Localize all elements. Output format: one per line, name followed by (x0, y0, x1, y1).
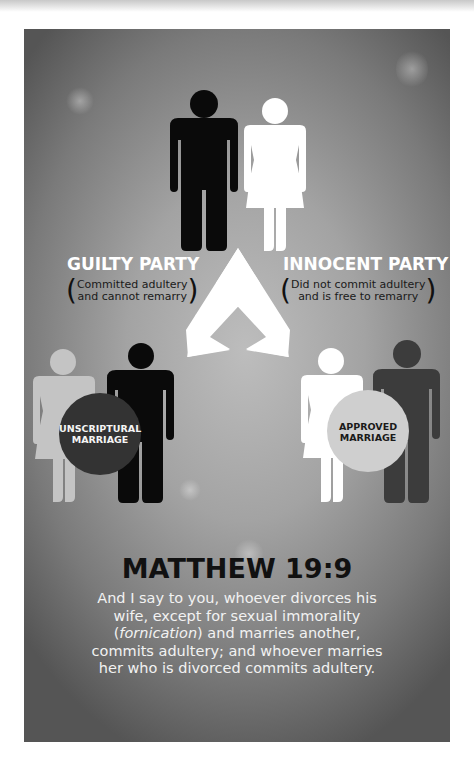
guilty-party-description: ( Committed adultery and cannot remarry … (66, 278, 199, 304)
verse-reference: MATTHEW 19:9 (0, 553, 474, 584)
approved-line-1: APPROVED (339, 421, 397, 432)
unscriptural-line-2: MARRIAGE (72, 434, 129, 445)
innocent-description-text: Did not commit adultery and is free to r… (291, 279, 425, 303)
innocent-party-title: INNOCENT PARTY (283, 254, 448, 274)
verse-line-2: wife, except for sexual immorality (114, 608, 361, 624)
woman-figure-white-top (244, 98, 306, 251)
verse-line-3-rest: ) and marries another, (197, 625, 360, 641)
verse-text: And I say to you, whoever divorces his w… (60, 590, 414, 678)
unscriptural-marriage-label: UNSCRIPTURAL MARRIAGE (59, 423, 141, 445)
innocent-party-description: ( Did not commit adultery and is free to… (280, 278, 436, 304)
open-paren: ( (66, 278, 77, 304)
close-paren: ) (188, 278, 199, 304)
verse-line-5: her who is divorced commits adultery. (99, 660, 375, 676)
verse-line-3-italic: fornication (119, 625, 197, 641)
innocent-line-2: and is free to remarry (298, 290, 418, 303)
verse-line-1: And I say to you, whoever divorces his (97, 590, 377, 606)
man-figure-black-top (170, 90, 238, 251)
guilty-line-2: and cannot remarry (78, 290, 187, 303)
guilty-party-title: GUILTY PARTY (67, 254, 199, 274)
open-paren: ( (280, 278, 291, 304)
close-paren: ) (425, 278, 436, 304)
approved-line-2: MARRIAGE (340, 432, 397, 443)
verse-line-4: commits adultery; and whoever marries (92, 643, 383, 659)
split-arrows-icon (186, 248, 290, 357)
approved-marriage-label: APPROVED MARRIAGE (327, 421, 409, 443)
unscriptural-line-1: UNSCRIPTURAL (59, 423, 141, 434)
guilty-description-text: Committed adultery and cannot remarry (77, 279, 188, 303)
